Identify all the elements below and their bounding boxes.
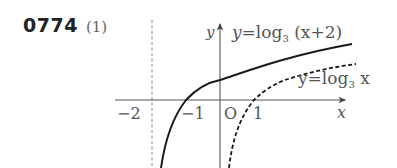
- tick-label-1: 1: [253, 104, 263, 123]
- tick-label-neg2: −2: [117, 104, 141, 123]
- y-axis-label: y: [205, 23, 215, 41]
- tick-label-neg1: −1: [181, 104, 205, 123]
- label-log3-x: y=log3 x: [297, 68, 370, 90]
- x-axis-label: x: [337, 103, 346, 122]
- log-graph: y x −2 −1 O 1 y=log3 (x+2) y=log3 x: [0, 0, 397, 168]
- label-log3-x-plus-2: y=log3 (x+2): [231, 22, 342, 44]
- origin-label: O: [224, 104, 237, 123]
